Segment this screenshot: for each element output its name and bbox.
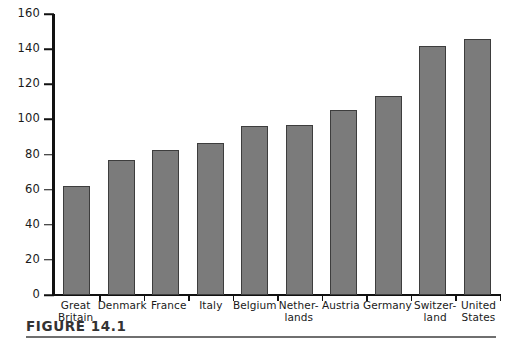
x-axis-category-label: Nether- lands (278, 300, 320, 323)
bar[interactable] (286, 125, 313, 295)
bar-slot (455, 14, 500, 295)
x-axis-category-label: Italy (190, 300, 232, 323)
bar-slot (55, 14, 100, 295)
y-axis-tick-label: 160 (17, 8, 40, 20)
x-axis-category-label: Belgium (232, 300, 278, 323)
bar-slot (322, 14, 367, 295)
figure-container: 020406080100120140160 Great BritainDenma… (0, 0, 512, 343)
y-axis-tick-label: 0 (32, 289, 40, 301)
bar-slot (411, 14, 456, 295)
x-axis-category-label: Germany (362, 300, 413, 323)
x-axis-category-label: France (148, 300, 190, 323)
bar[interactable] (241, 126, 268, 295)
x-axis-category-label: Austria (320, 300, 362, 323)
bar[interactable] (330, 110, 357, 295)
y-axis-tick-label: 80 (25, 149, 40, 161)
caption-divider (26, 336, 496, 338)
y-axis-tick-label: 40 (25, 219, 40, 231)
bar-slot (188, 14, 233, 295)
bar[interactable] (152, 150, 179, 295)
bar-slot (144, 14, 189, 295)
bar[interactable] (419, 46, 446, 295)
bar[interactable] (375, 96, 402, 295)
y-axis-tick-labels: 020406080100120140160 (6, 14, 40, 295)
y-axis-tick-label: 100 (17, 114, 40, 126)
y-axis-tick-label: 140 (17, 43, 40, 55)
bar-slot (277, 14, 322, 295)
bar-slot (233, 14, 278, 295)
y-axis-tick-label: 60 (25, 184, 40, 196)
y-axis-tick-label: 120 (17, 79, 40, 91)
bar-slot (99, 14, 144, 295)
x-axis-category-label: Switzer- land (413, 300, 458, 323)
figure-caption: FIGURE 14.1 (26, 318, 127, 334)
bar[interactable] (464, 39, 491, 295)
bar[interactable] (197, 143, 224, 295)
bar[interactable] (108, 160, 135, 295)
bar-chart: 020406080100120140160 Great BritainDenma… (0, 0, 512, 315)
bar-series (55, 14, 500, 295)
bar[interactable] (63, 186, 90, 295)
x-axis-category-label: United States (457, 300, 499, 323)
bar-slot (366, 14, 411, 295)
x-axis-tick (500, 294, 502, 301)
y-axis-tick-label: 20 (25, 254, 40, 266)
